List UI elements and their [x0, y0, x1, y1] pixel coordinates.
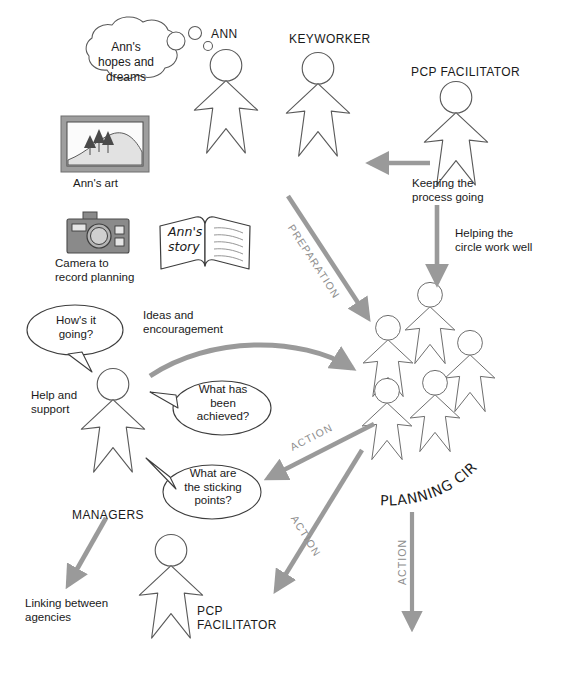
camera-icon — [67, 212, 129, 253]
thought-cloud-text: Ann's hopes and dreams — [78, 40, 174, 85]
label-pcp-facilitator-bottom: PCP FACILITATOR — [197, 604, 277, 632]
arrow-preparation — [288, 196, 368, 318]
person-pcp-facilitator-top — [424, 82, 487, 186]
arrow-linking-between-agencies — [68, 518, 106, 585]
flow-helping-the-circle-work-well: Helping the circle work well — [455, 227, 532, 254]
bubble-text-what-are-the-sticking-points: What are the sticking points? — [170, 467, 256, 508]
caption-anns-story: Ann's story — [168, 225, 202, 255]
caption-camera: Camera to record planning — [55, 257, 134, 284]
flow-help-and-support: Help and support — [31, 389, 77, 416]
person-keyworker — [286, 53, 349, 157]
person-managers — [81, 369, 144, 473]
flow-ideas-and-encouragement: Ideas and encouragement — [143, 309, 223, 336]
picture-frame-icon — [61, 116, 149, 172]
planning-circle-group — [362, 282, 495, 459]
diagram-vector-layer: PLANNING CIRCLE — [0, 0, 572, 683]
person-pcp-facilitator-bottom — [139, 535, 202, 639]
arrow-ideas-and-encouragement — [150, 345, 352, 376]
flow-linking-between-agencies: Linking between agencies — [25, 597, 108, 624]
bubble-text-hows-it-going: How's it going? — [44, 314, 108, 341]
label-keyworker: KEYWORKER — [289, 32, 371, 46]
person-ann — [194, 50, 257, 154]
diagram-canvas: PLANNING CIRCLE Ann's hopes and dreams A… — [0, 0, 572, 683]
label-managers: MANAGERS — [72, 508, 144, 522]
label-pcp-facilitator-top: PCP FACILITATOR — [411, 65, 520, 79]
stage-label-action-right: ACTION — [396, 539, 408, 585]
label-ann: ANN — [211, 27, 238, 41]
flow-keeping-the-process-going: Keeping the process going — [412, 177, 484, 204]
bubble-text-what-has-been-achieved: What has been achieved? — [184, 383, 262, 424]
caption-anns-art: Ann's art — [73, 177, 118, 191]
